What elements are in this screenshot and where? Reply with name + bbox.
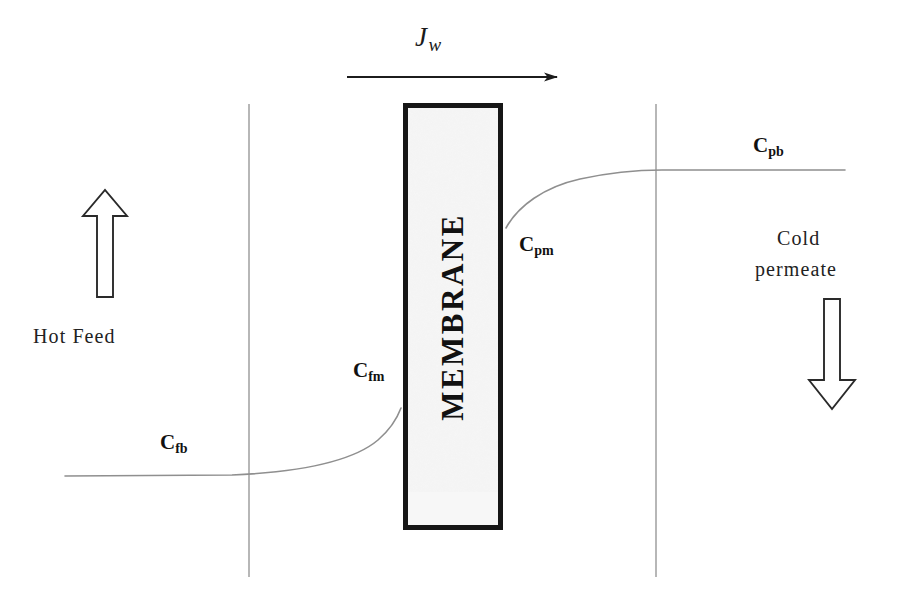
cpb-symbol: C xyxy=(753,133,768,157)
cfm-symbol: C xyxy=(353,358,368,382)
membrane-block: MEMBRANE xyxy=(403,103,503,530)
feed-concentration-curve xyxy=(65,408,401,476)
hot-feed-up-arrow-icon xyxy=(83,190,127,297)
feed-bulk-concentration-label: Cfb xyxy=(160,430,188,457)
cpm-subscript: pm xyxy=(534,243,553,258)
cpb-subscript: pb xyxy=(768,144,784,159)
cfb-subscript: fb xyxy=(175,441,187,456)
cold-permeate-label-line1: Cold xyxy=(777,227,820,250)
hot-feed-label: Hot Feed xyxy=(33,325,116,348)
feed-membrane-concentration-label: Cfm xyxy=(353,358,385,385)
diagram-canvas: MEMBRANE Jw Hot Feed Cold permeate Cfb C… xyxy=(0,0,898,591)
flux-subscript: w xyxy=(428,34,441,55)
permeate-bulk-concentration-label: Cpb xyxy=(753,133,784,160)
cold-permeate-label-line2: permeate xyxy=(755,258,837,281)
cfm-subscript: fm xyxy=(368,369,384,384)
cold-permeate-down-arrow-icon xyxy=(809,299,855,409)
cpm-symbol: C xyxy=(519,232,534,256)
cfb-symbol: C xyxy=(160,430,175,454)
permeate-membrane-concentration-label: Cpm xyxy=(519,232,554,259)
permeate-concentration-curve xyxy=(506,170,845,228)
flux-symbol: J xyxy=(415,22,427,52)
flux-label: Jw xyxy=(415,22,442,56)
membrane-label: MEMBRANE xyxy=(435,213,471,421)
